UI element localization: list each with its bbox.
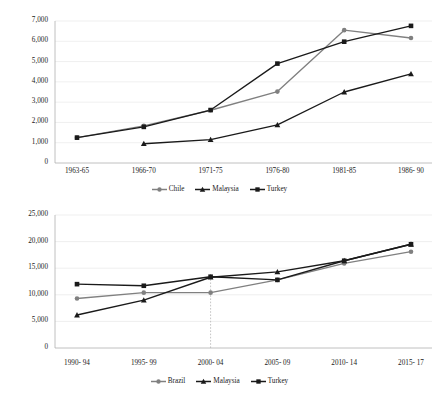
legend-label: Malaysia [212,186,238,193]
chart-top: 01,0002,0003,0004,0005,0006,0007,000 196… [0,0,439,200]
chart-bottom: 05,00010,00015,00020,00025,000 1990- 941… [0,200,439,412]
legend-item-chile[interactable]: Chile [152,185,185,194]
data-point [142,290,147,295]
x-axis-tick-label: 1963-65 [65,168,89,176]
data-point [208,290,213,295]
circle-marker-icon [152,185,167,194]
data-point [409,249,414,254]
legend-label: Turkey [268,378,289,385]
square-marker-icon [251,377,266,386]
data-point [342,39,347,44]
chart-figure: 01,0002,0003,0004,0005,0006,0007,000 196… [0,0,439,412]
legend-item-malaysia[interactable]: Malaysia [196,377,239,386]
data-point [75,296,80,301]
data-point [409,36,414,41]
data-point [275,278,280,283]
x-axis-tick-label: 1971-75 [199,168,223,176]
data-point [275,89,280,94]
data-point [142,283,147,288]
legend-label: Malaysia [213,378,239,385]
data-point [342,258,347,263]
x-axis-tick-label: 1966-70 [132,168,156,176]
triangle-marker-icon [195,185,210,194]
legend-item-malaysia[interactable]: Malaysia [195,185,238,194]
x-axis-tick-label: 2015- 17 [398,360,424,368]
legend-top: ChileMalaysiaTurkey [0,185,439,194]
x-axis-tick-label: 2005- 09 [265,360,291,368]
data-point [208,274,213,279]
legend-label: Brazil [168,378,186,385]
legend-item-brazil[interactable]: Brazil [151,377,186,386]
square-marker-icon [250,185,265,194]
legend-item-turkey[interactable]: Turkey [250,185,288,194]
x-axis-tick-label: 2010- 14 [331,360,357,368]
x-axis-tick-label: 1981-85 [332,168,356,176]
data-point [142,125,147,130]
legend-item-turkey[interactable]: Turkey [251,377,289,386]
x-axis-tick-label: 1990- 94 [64,360,90,368]
data-point [342,28,347,33]
data-point [408,71,414,76]
legend-label: Turkey [267,186,288,193]
data-point [208,108,213,113]
x-axis-tick-label: 2000- 04 [198,360,224,368]
circle-marker-icon [151,377,166,386]
data-point [75,282,80,287]
x-axis-tick-label: 1995- 99 [131,360,157,368]
data-point [275,61,280,66]
triangle-marker-icon [196,377,211,386]
legend-label: Chile [169,186,185,193]
data-point [409,24,414,29]
data-point [409,242,414,247]
data-point [75,135,80,140]
legend-bottom: BrazilMalaysiaTurkey [0,377,439,386]
x-axis-tick-label: 1976-80 [265,168,289,176]
x-axis-tick-label: 1986- 90 [398,168,424,176]
